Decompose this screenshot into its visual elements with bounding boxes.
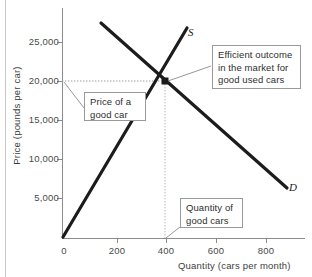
supply-curve <box>63 28 187 237</box>
callout-price-line2: good car <box>90 109 140 122</box>
plot-area <box>0 0 312 277</box>
callout-quantity-line2: good cars <box>186 215 237 228</box>
leader-line-price <box>64 82 84 108</box>
callout-quantity-line1: Quantity of <box>186 202 237 215</box>
supply-demand-chart: 25,000 20,000 15,000 10,000 5,000 0 200 … <box>0 0 312 277</box>
supply-curve-label: S <box>188 26 194 38</box>
callout-quantity-of-good-cars: Quantity of good cars <box>180 198 243 228</box>
callout-efficient-line1: Efficient outcome <box>218 49 295 62</box>
callout-efficient-outcome: Efficient outcome in the market for good… <box>212 45 301 89</box>
callout-price-line1: Price of a <box>90 96 140 109</box>
callout-efficient-line2: in the market for <box>218 62 295 75</box>
demand-curve-label: D <box>289 181 297 193</box>
callout-efficient-line3: good used cars <box>218 74 295 87</box>
equilibrium-marker <box>162 78 169 85</box>
leader-line-quantity <box>166 227 180 238</box>
leader-line-efficient <box>168 66 211 81</box>
callout-price-of-good-car: Price of a good car <box>84 92 146 121</box>
